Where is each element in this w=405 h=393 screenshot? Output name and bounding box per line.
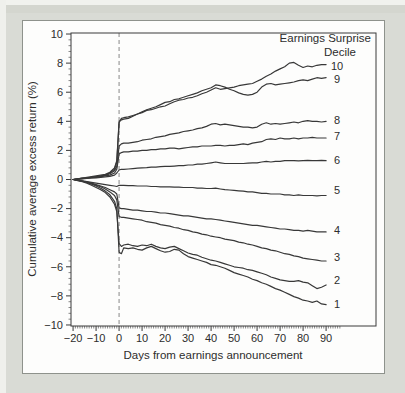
x-tick-label: 90 <box>320 332 332 344</box>
decile-label-2: 2 <box>334 274 340 286</box>
legend-title-line1: Earnings Surprise <box>280 32 371 44</box>
x-tick-label: 10 <box>136 332 148 344</box>
series-line-decile-4 <box>73 180 326 232</box>
y-tick-label: −8 <box>50 290 63 302</box>
y-tick-label: −6 <box>50 261 63 273</box>
legend-title-line2: Decile <box>324 46 356 58</box>
x-tick-label: 80 <box>297 332 309 344</box>
decile-label-9: 9 <box>334 73 340 85</box>
decile-label-3: 3 <box>334 251 340 263</box>
x-axis-title: Days from earnings announcement <box>124 349 304 361</box>
y-major-ticks: 1086420−2−4−6−8−10 <box>44 28 71 331</box>
decile-label-6: 6 <box>334 154 340 166</box>
decile-labels: 10987654321 <box>331 60 343 310</box>
y-axis-title: Cumulative average excess return (%) <box>26 81 38 277</box>
y-tick-label: 10 <box>51 28 63 40</box>
x-tick-label: 30 <box>182 332 194 344</box>
y-tick-label: 6 <box>57 86 63 98</box>
x-tick-label: −20 <box>64 332 83 344</box>
decile-label-7: 7 <box>334 130 340 142</box>
decile-label-5: 5 <box>334 184 340 196</box>
x-tick-label: 70 <box>274 332 286 344</box>
y-tick-label: 0 <box>57 173 63 185</box>
y-tick-label: 4 <box>57 115 63 127</box>
page-edge-highlight-left <box>0 0 6 393</box>
page-scan-band <box>0 5 405 13</box>
scanned-page-background: −20−1001020304050607080901086420−2−4−6−8… <box>0 0 405 393</box>
series-line-decile-3 <box>73 180 326 262</box>
axes-box <box>71 33 376 326</box>
x-tick-label: −10 <box>87 332 106 344</box>
x-tick-label: 20 <box>159 332 171 344</box>
series-line-decile-6 <box>73 160 326 179</box>
decile-label-1: 1 <box>334 298 340 310</box>
y-tick-label: −4 <box>50 231 63 243</box>
decile-label-4: 4 <box>334 224 340 236</box>
series-lines <box>73 62 326 304</box>
page-edge-highlight-top <box>0 0 405 5</box>
y-tick-label: 8 <box>57 57 63 69</box>
x-major-ticks: −20−100102030405060708090 <box>64 326 332 344</box>
x-tick-label: 0 <box>116 332 122 344</box>
y-tick-label: −2 <box>50 202 63 214</box>
decile-label-8: 8 <box>334 114 340 126</box>
figure-panel: −20−1001020304050607080901086420−2−4−6−8… <box>22 20 385 374</box>
y-tick-label: −10 <box>44 319 63 331</box>
x-tick-label: 50 <box>228 332 240 344</box>
series-line-decile-10 <box>73 62 326 179</box>
decile-label-10: 10 <box>331 60 343 72</box>
y-tick-label: 2 <box>57 144 63 156</box>
x-tick-label: 60 <box>251 332 263 344</box>
pead-line-chart: −20−1001020304050607080901086420−2−4−6−8… <box>23 21 384 373</box>
x-tick-label: 40 <box>205 332 217 344</box>
